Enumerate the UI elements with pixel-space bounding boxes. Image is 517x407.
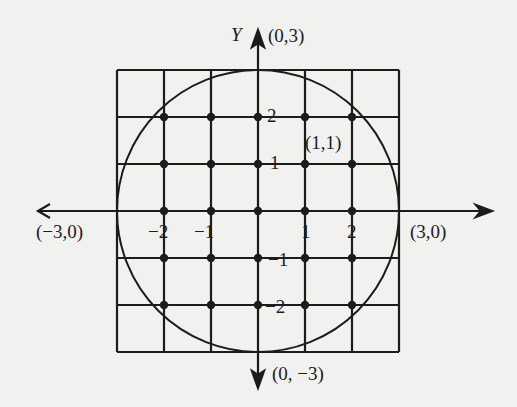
y-axis-label: Y bbox=[231, 25, 242, 44]
lattice-point bbox=[207, 301, 215, 309]
lattice-point bbox=[207, 207, 215, 215]
lattice-point bbox=[301, 254, 309, 262]
x-tick-minus-1: −1 bbox=[194, 222, 214, 241]
lattice-point bbox=[160, 160, 168, 168]
y-tick-2: 2 bbox=[267, 106, 277, 125]
lattice-point bbox=[301, 113, 309, 121]
lattice-point bbox=[160, 254, 168, 262]
lattice-point bbox=[348, 207, 356, 215]
label-bottom-point: (0, −3) bbox=[272, 364, 324, 383]
lattice-point bbox=[254, 160, 262, 168]
lattice-point bbox=[207, 254, 215, 262]
lattice-point bbox=[207, 160, 215, 168]
lattice-point bbox=[254, 207, 262, 215]
x-tick-2: 2 bbox=[347, 222, 357, 241]
lattice-point bbox=[348, 113, 356, 121]
lattice-point bbox=[348, 301, 356, 309]
lattice-point bbox=[160, 301, 168, 309]
lattice-point bbox=[254, 301, 262, 309]
lattice-point bbox=[301, 301, 309, 309]
lattice-circle-diagram: Y (0,3) (0, −3) (−3,0) (3,0) (1,1) −2 −1… bbox=[0, 0, 517, 407]
label-top-point: (0,3) bbox=[268, 26, 304, 45]
x-tick-minus-2: −2 bbox=[148, 222, 168, 241]
x-tick-1: 1 bbox=[301, 222, 311, 241]
lattice-point bbox=[301, 160, 309, 168]
lattice-point bbox=[348, 160, 356, 168]
lattice-point bbox=[207, 113, 215, 121]
label-point-1-1: (1,1) bbox=[305, 133, 341, 152]
y-tick-minus-2: −2 bbox=[265, 297, 285, 316]
axes bbox=[38, 30, 492, 388]
label-left-point: (−3,0) bbox=[36, 222, 83, 241]
lattice-point bbox=[348, 254, 356, 262]
lattice-point bbox=[254, 254, 262, 262]
label-right-point: (3,0) bbox=[410, 222, 446, 241]
lattice-point bbox=[160, 207, 168, 215]
y-tick-1: 1 bbox=[270, 153, 280, 172]
lattice-point bbox=[254, 113, 262, 121]
y-tick-minus-1: −1 bbox=[268, 250, 288, 269]
diagram-canvas bbox=[0, 0, 517, 407]
lattice-point bbox=[160, 113, 168, 121]
lattice-point bbox=[301, 207, 309, 215]
